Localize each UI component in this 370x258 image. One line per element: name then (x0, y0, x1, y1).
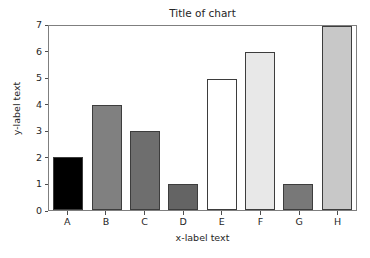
bar-slot (241, 26, 279, 210)
bar-slot (164, 26, 202, 210)
x-tick-label: G (280, 216, 319, 227)
y-tick-label: 1 (36, 178, 42, 190)
bar-a[interactable] (53, 157, 83, 210)
bar-slot (87, 26, 125, 210)
x-axis-tick: D (164, 211, 203, 231)
bar-slot (318, 26, 356, 210)
plot-area (48, 25, 357, 211)
y-tick-label: 6 (36, 46, 42, 58)
y-tick-label: 4 (36, 99, 42, 111)
x-tick-mark (144, 211, 145, 215)
bar-slot (49, 26, 87, 210)
x-axis-tick: C (125, 211, 164, 231)
x-axis-tick: A (48, 211, 87, 231)
bar-d[interactable] (168, 184, 198, 210)
bar-h[interactable] (322, 26, 352, 210)
x-axis-tick: H (318, 211, 357, 231)
y-tick-label: 7 (36, 19, 42, 31)
x-tick-mark (260, 211, 261, 215)
x-tick-mark (221, 211, 222, 215)
bar-e[interactable] (207, 79, 237, 210)
y-tick-label: 2 (36, 152, 42, 164)
y-axis-label: y-label text (11, 54, 22, 164)
y-tick-label: 3 (36, 125, 42, 137)
x-tick-mark (105, 211, 106, 215)
bar-b[interactable] (92, 105, 122, 210)
x-axis-tick: B (87, 211, 126, 231)
x-tick-mark (299, 211, 300, 215)
x-axis-tick: E (203, 211, 242, 231)
bar-chart-figure: Title of chart 01234567 ABCDEFGH x-label… (0, 0, 370, 258)
bar-f[interactable] (245, 52, 275, 210)
x-tick-label: D (164, 216, 203, 227)
bar-slot (203, 26, 241, 210)
y-tick-label: 5 (36, 72, 42, 84)
y-tick-label: 0 (36, 205, 42, 217)
x-tick-label: H (318, 216, 357, 227)
bar-c[interactable] (130, 131, 160, 210)
x-tick-label: E (203, 216, 242, 227)
x-axis-tick: F (241, 211, 280, 231)
x-tick-label: A (48, 216, 87, 227)
bar-slot (279, 26, 317, 210)
bars-layer (49, 26, 356, 210)
x-tick-mark (67, 211, 68, 215)
x-tick-mark (183, 211, 184, 215)
x-axis-label: x-label text (48, 232, 357, 243)
chart-title: Title of chart (48, 7, 357, 19)
bar-slot (126, 26, 164, 210)
y-axis-tick-group: 01234567 (0, 25, 48, 211)
x-axis-tick: G (280, 211, 319, 231)
x-tick-label: C (125, 216, 164, 227)
x-tick-mark (337, 211, 338, 215)
x-tick-label: B (87, 216, 126, 227)
x-tick-label: F (241, 216, 280, 227)
bar-g[interactable] (283, 184, 313, 210)
x-axis-tick-group: ABCDEFGH (48, 211, 357, 231)
